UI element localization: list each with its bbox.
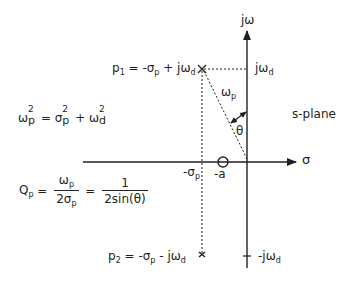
pole-p2-expression: p2 = -σp - jωd: [108, 250, 186, 265]
omega-p-squared-equation: ω2p = σ2p + ω2d: [18, 110, 108, 124]
imaginary-axis-label: jω: [241, 14, 254, 26]
zero-label: -a: [214, 168, 226, 180]
pole-p1-expression: p1 = -σp + jωd: [112, 62, 196, 77]
tick-label-neg-sigma-p: -σp: [183, 166, 200, 181]
real-axis-label: σ: [302, 153, 310, 166]
tick-label-jwd: jωd: [255, 62, 273, 77]
theta-label: θ: [236, 125, 243, 137]
s-plane-graphics: [0, 0, 351, 282]
q-factor-equation: Qp = ωp2σp = 12sin(θ): [19, 174, 151, 208]
omega-p-vector-label: ωp: [221, 86, 236, 101]
theta-arc-arrow: [231, 112, 246, 123]
tick-label-neg-jwd: -jωd: [258, 250, 281, 265]
s-plane-label: s-plane: [292, 108, 336, 120]
